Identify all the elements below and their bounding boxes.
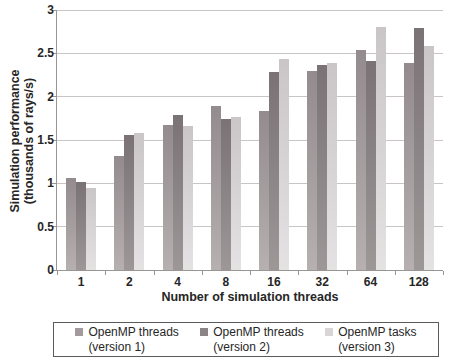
gridline-y-3 [57,10,443,11]
bar-8-series2 [221,119,231,270]
bar-32-series2 [317,65,327,270]
bar-16-series2 [269,72,279,270]
bar-8-series3 [231,117,241,270]
bar-64-series3 [376,27,386,270]
x-tick-label-128: 128 [395,275,443,289]
y-tick-label: 0 [14,264,54,276]
legend-swatch-icon [325,328,333,336]
y-tick-label: 1 [14,177,54,189]
plot-area [57,10,443,270]
bar-2-series3 [134,133,144,270]
y-tick-label: 1.5 [14,134,54,146]
bar-4-series2 [173,115,183,270]
bar-16-series3 [279,59,289,270]
bar-32-series1 [307,71,317,270]
bar-chart-figure: Simulation performance (thousands of ray… [0,0,450,362]
x-tick-label-64: 64 [347,275,395,289]
bar-4-series3 [183,126,193,270]
bar-8-series1 [211,106,221,270]
bar-128-series1 [404,63,414,270]
bar-128-series3 [424,46,434,270]
bar-64-series2 [366,61,376,270]
x-tick-label-8: 8 [202,275,250,289]
bar-128-series2 [414,28,424,270]
legend-label: OpenMP tasks(version 3) [338,325,416,355]
x-tick-label-32: 32 [298,275,346,289]
y-tick-label: 2 [14,91,54,103]
bar-64-series1 [356,50,366,270]
legend-item-series3: OpenMP tasks(version 3) [325,325,416,355]
y-axis-line [56,10,57,271]
legend-label: OpenMP threads(version 2) [213,325,304,355]
legend-label: OpenMP threads(version 1) [88,325,179,355]
x-tick-label-16: 16 [250,275,298,289]
x-axis-title: Number of simulation threads [57,290,443,304]
bar-16-series1 [259,111,269,270]
x-tick-label-1: 1 [57,275,105,289]
bar-32-series3 [327,63,337,270]
bar-4-series1 [163,125,173,270]
y-tick-label: 0.5 [14,221,54,233]
y-tick-label: 3 [14,4,54,16]
x-tick-mark [443,271,444,275]
bar-1-series2 [76,182,86,270]
legend: OpenMP threads(version 1)OpenMP threads(… [53,322,439,357]
y-tick-label: 2.5 [14,47,54,59]
x-tick-label-4: 4 [154,275,202,289]
legend-item-series1: OpenMP threads(version 1) [75,325,179,355]
bar-2-series2 [124,135,134,270]
x-tick-label-2: 2 [105,275,153,289]
bar-1-series3 [86,188,96,270]
bar-2-series1 [114,156,124,270]
legend-swatch-icon [200,328,208,336]
legend-swatch-icon [75,328,83,336]
bar-1-series1 [66,178,76,270]
legend-item-series2: OpenMP threads(version 2) [200,325,304,355]
